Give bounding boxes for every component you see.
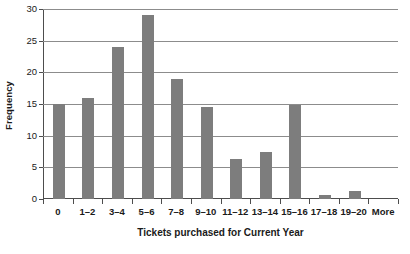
x-axis-tickmark bbox=[43, 199, 44, 204]
x-axis-tick-label: More bbox=[372, 205, 395, 219]
bar-slot bbox=[310, 9, 340, 199]
bar-slot bbox=[222, 9, 252, 199]
x-axis-tickmark bbox=[191, 199, 192, 204]
x-axis-tickmark bbox=[250, 199, 251, 204]
bar bbox=[142, 15, 154, 199]
x-axis-tick-label: 9–10 bbox=[195, 205, 216, 219]
x-axis-tick-label: 1–2 bbox=[79, 205, 95, 219]
x-axis-tick-label: 11–12 bbox=[222, 205, 248, 219]
y-axis-title: Frequency bbox=[0, 0, 16, 210]
x-axis-tick-label: 3–4 bbox=[109, 205, 125, 219]
y-axis-tick-label: 30 bbox=[26, 4, 37, 14]
y-axis-title-label: Frequency bbox=[3, 81, 14, 130]
y-axis-tick-label: 25 bbox=[26, 36, 37, 46]
x-axis-tickmark bbox=[398, 199, 399, 204]
y-axis-tick-label: 5 bbox=[32, 163, 37, 173]
x-axis-tickmark bbox=[339, 199, 340, 204]
x-axis-tickmark-group bbox=[43, 199, 398, 204]
y-axis-tickmark bbox=[39, 167, 43, 168]
bar-series bbox=[44, 9, 398, 199]
bar-slot bbox=[281, 9, 311, 199]
y-axis-tickmark bbox=[39, 9, 43, 10]
bar bbox=[82, 98, 94, 199]
y-axis-tick-label: 0 bbox=[32, 194, 37, 204]
plot-area bbox=[43, 9, 398, 199]
bar bbox=[230, 159, 242, 199]
x-axis-tick-label-group: 01–23–45–67–89–1011–1213–1415–1617–1819–… bbox=[43, 205, 398, 219]
x-axis-tick-label: 5–6 bbox=[139, 205, 155, 219]
bar bbox=[53, 104, 65, 199]
x-axis-tick-label: 7–8 bbox=[168, 205, 184, 219]
y-axis-tickmark bbox=[39, 104, 43, 105]
x-axis-title: Tickets purchased for Current Year bbox=[43, 227, 398, 238]
bar bbox=[112, 47, 124, 199]
y-axis-tickmark bbox=[39, 72, 43, 73]
x-axis-tickmark bbox=[132, 199, 133, 204]
x-axis-tick-label: 13–14 bbox=[252, 205, 278, 219]
bar bbox=[171, 79, 183, 199]
bar-slot bbox=[340, 9, 370, 199]
x-axis-tickmark bbox=[221, 199, 222, 204]
bar-slot bbox=[74, 9, 104, 199]
x-axis-tick-label: 19–20 bbox=[340, 205, 366, 219]
y-axis-tick-label: 15 bbox=[26, 99, 37, 109]
x-axis-tickmark bbox=[102, 199, 103, 204]
x-axis-tick-label: 0 bbox=[55, 205, 60, 219]
x-axis-tickmark bbox=[368, 199, 369, 204]
bar-slot bbox=[44, 9, 74, 199]
bar-slot bbox=[192, 9, 222, 199]
bar bbox=[260, 152, 272, 200]
x-axis-tick-label: 15–16 bbox=[281, 205, 307, 219]
y-axis-tick-label-group: 051015202530 bbox=[16, 9, 40, 199]
bar-slot bbox=[133, 9, 163, 199]
bar bbox=[349, 191, 361, 199]
histogram-chart: Frequency 051015202530 01–23–45–67–89–10… bbox=[0, 0, 410, 254]
bar bbox=[289, 105, 301, 199]
y-axis-tickmark bbox=[39, 136, 43, 137]
y-axis-tick-label: 20 bbox=[26, 68, 37, 78]
bar-slot bbox=[251, 9, 281, 199]
bar-slot bbox=[162, 9, 192, 199]
x-axis-tickmark bbox=[73, 199, 74, 204]
x-axis-tick-label: 17–18 bbox=[311, 205, 337, 219]
x-axis-tickmark bbox=[280, 199, 281, 204]
x-axis-tickmark bbox=[309, 199, 310, 204]
y-axis-tickmark bbox=[39, 41, 43, 42]
bar-slot bbox=[369, 9, 399, 199]
bar bbox=[201, 107, 213, 199]
y-axis-tick-label: 10 bbox=[26, 131, 37, 141]
x-axis-tickmark bbox=[161, 199, 162, 204]
bar-slot bbox=[103, 9, 133, 199]
